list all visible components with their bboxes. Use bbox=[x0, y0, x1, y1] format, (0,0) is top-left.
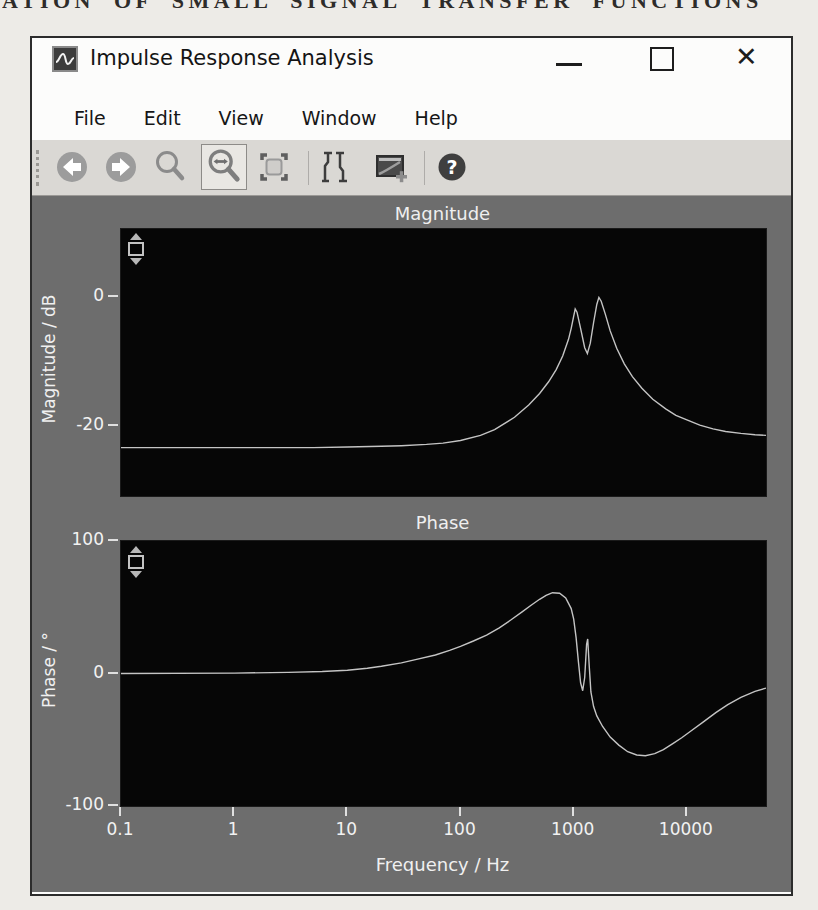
menu-item-help[interactable]: Help bbox=[415, 107, 458, 129]
maximize-button[interactable] bbox=[650, 47, 674, 71]
y-tick-mark bbox=[108, 672, 118, 674]
y-tick-mark bbox=[108, 804, 118, 806]
magnitude-plot-area[interactable] bbox=[120, 228, 767, 497]
cursor-probe-button[interactable] bbox=[314, 147, 354, 187]
scanned-page: ATION OF SMALL SIGNAL TRANSFER FUNCTIONS… bbox=[0, 0, 818, 910]
x-tick-label: 1000 bbox=[531, 819, 615, 839]
toolbar-separator bbox=[424, 151, 425, 185]
y-tick-mark bbox=[108, 295, 118, 297]
x-tick-mark bbox=[459, 807, 461, 816]
phase-plot-title: Phase bbox=[120, 512, 765, 533]
help-glyph: ? bbox=[446, 156, 457, 178]
spinner-down-icon[interactable] bbox=[130, 258, 142, 265]
spinner-down-icon[interactable] bbox=[130, 571, 142, 578]
page-heading-fragment: ATION OF SMALL SIGNAL TRANSFER FUNCTIONS bbox=[2, 0, 802, 13]
x-axis-label: Frequency / Hz bbox=[120, 854, 765, 875]
toolbar-separator bbox=[308, 151, 309, 185]
menu-item-window[interactable]: Window bbox=[302, 107, 377, 129]
y-tick-label: 100 bbox=[42, 529, 104, 549]
menu-item-view[interactable]: View bbox=[219, 107, 264, 129]
spinner-up-icon[interactable] bbox=[130, 546, 142, 553]
x-tick-label: 0.1 bbox=[78, 819, 162, 839]
x-tick-label: 1 bbox=[191, 819, 275, 839]
spinner-box-icon[interactable] bbox=[128, 555, 144, 569]
y-tick-label: -20 bbox=[42, 414, 104, 434]
phase-plot-area[interactable] bbox=[120, 540, 767, 807]
toolbar bbox=[32, 140, 791, 196]
x-tick-mark bbox=[345, 807, 347, 816]
magnitude-curve bbox=[121, 297, 766, 447]
back-button[interactable] bbox=[52, 147, 92, 187]
close-button[interactable]: ✕ bbox=[735, 42, 758, 72]
app-icon bbox=[52, 46, 78, 72]
x-tick-label: 10000 bbox=[644, 819, 728, 839]
y-tick-mark bbox=[108, 424, 118, 426]
y-tick-label: 0 bbox=[42, 662, 104, 682]
minimize-button[interactable] bbox=[556, 63, 582, 66]
magnitude-plot-title: Magnitude bbox=[120, 203, 765, 224]
window-title: Impulse Response Analysis bbox=[90, 46, 374, 70]
spinner-box-icon[interactable] bbox=[128, 242, 144, 256]
menu-item-file[interactable]: File bbox=[74, 107, 106, 129]
x-tick-mark bbox=[232, 807, 234, 816]
x-tick-label: 100 bbox=[418, 819, 502, 839]
add-plot-window-button[interactable] bbox=[370, 147, 410, 187]
zoom-horizontal-button[interactable] bbox=[201, 144, 247, 190]
x-tick-mark bbox=[685, 807, 687, 816]
toolbar-grip[interactable] bbox=[36, 150, 39, 186]
spinner-up-icon[interactable] bbox=[130, 233, 142, 240]
x-tick-mark bbox=[572, 807, 574, 816]
help-button[interactable]: ? bbox=[432, 147, 472, 187]
phase-axis-spinner[interactable] bbox=[126, 546, 146, 578]
phase-curve bbox=[121, 593, 766, 756]
y-tick-mark bbox=[108, 539, 118, 541]
y-tick-label: 0 bbox=[42, 285, 104, 305]
magnitude-y-axis-label: Magnitude / dB bbox=[39, 219, 59, 499]
x-tick-label: 10 bbox=[304, 819, 388, 839]
x-tick-mark bbox=[119, 807, 121, 816]
zoom-fit-button[interactable] bbox=[254, 147, 294, 187]
magnitude-axis-spinner[interactable] bbox=[126, 233, 146, 265]
menu-item-edit[interactable]: Edit bbox=[144, 107, 181, 129]
y-tick-label: -100 bbox=[42, 794, 104, 814]
forward-button[interactable] bbox=[101, 147, 141, 187]
zoom-button[interactable] bbox=[150, 147, 190, 187]
menu-bar: File Edit View Window Help bbox=[32, 95, 791, 140]
